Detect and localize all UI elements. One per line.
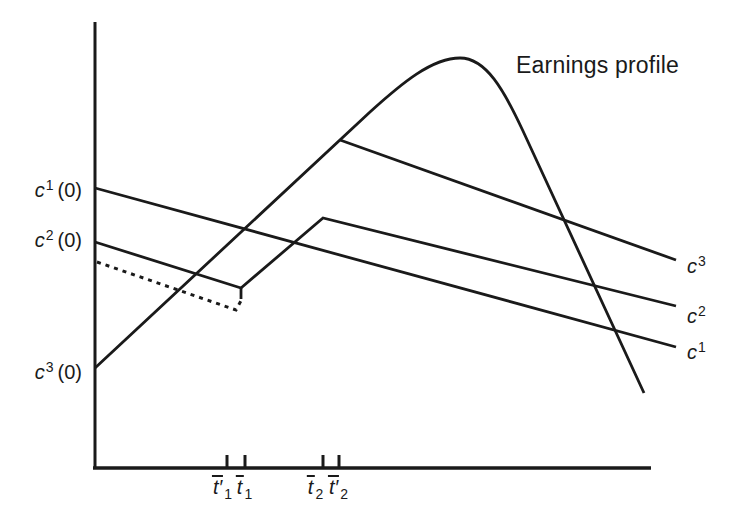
y-label-c3-0: c3(0): [14, 355, 82, 384]
c2-var: c: [35, 229, 45, 251]
t2-base: t: [308, 476, 314, 498]
x-tick-label-t2: t2: [307, 475, 323, 505]
t2p-sub: 2: [340, 486, 348, 502]
earnings-profile: [95, 58, 644, 393]
x-tick-label-t2-prime: t′2: [328, 475, 348, 505]
t2-overlined: t: [307, 475, 315, 497]
t1-sub: 1: [244, 486, 252, 502]
t2p-prime: ′: [335, 476, 339, 498]
rc1-sup: 1: [698, 339, 706, 355]
t1-base: t: [237, 476, 243, 498]
curve-label-c2: c2: [687, 299, 706, 328]
c1-path: [95, 188, 676, 347]
rc1-var: c: [687, 341, 697, 363]
c2-paren: (0): [58, 229, 82, 251]
earnings-profile-figure: c1(0) c2(0) c3(0) c3 c2 c1 Earnings prof…: [0, 0, 735, 521]
t2p-overlined: t′: [328, 475, 339, 497]
curve-label-c1: c1: [687, 335, 706, 364]
dotted-alternative-path: [97, 262, 243, 310]
c3-path: [340, 140, 676, 260]
x-tick-label-t1: t1: [236, 475, 252, 505]
t1p-sub: 1: [224, 486, 232, 502]
rc2-var: c: [687, 305, 697, 327]
c1-var: c: [35, 179, 45, 201]
t1-overlined: t: [236, 475, 244, 497]
t1p-prime: ′: [219, 476, 223, 498]
axes-group: [93, 22, 651, 469]
c1-paren: (0): [58, 179, 82, 201]
y-label-c2-0: c2(0): [14, 223, 82, 252]
rc3-var: c: [687, 255, 697, 277]
c3-var: c: [35, 361, 45, 383]
rc2-sup: 2: [698, 303, 706, 319]
y-label-c1-0: c1(0): [14, 173, 82, 202]
earnings-profile-annotation: Earnings profile: [516, 52, 679, 79]
c2-sup: 2: [46, 227, 54, 243]
c1-sup: 1: [46, 177, 54, 193]
x-tick-label-t1-prime: t′1: [212, 475, 232, 505]
c3-sup: 3: [46, 359, 54, 375]
c3-paren: (0): [58, 361, 82, 383]
curve-label-c3: c3: [687, 249, 706, 278]
t2-sub: 2: [315, 486, 323, 502]
t1p-overlined: t′: [212, 475, 223, 497]
plot-lines: [95, 58, 676, 393]
rc3-sup: 3: [698, 253, 706, 269]
